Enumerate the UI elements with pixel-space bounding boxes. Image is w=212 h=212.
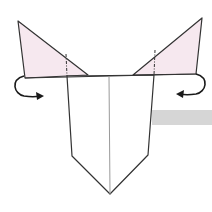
- right-curved-arrow-icon: [176, 74, 205, 98]
- gray-side-bar: [152, 110, 212, 125]
- origami-diagram: [0, 0, 212, 212]
- pentagon-body: [67, 75, 154, 194]
- right-triangle-flap: [133, 18, 202, 75]
- left-triangle-flap: [18, 21, 88, 78]
- left-curved-arrow-icon: [15, 76, 44, 100]
